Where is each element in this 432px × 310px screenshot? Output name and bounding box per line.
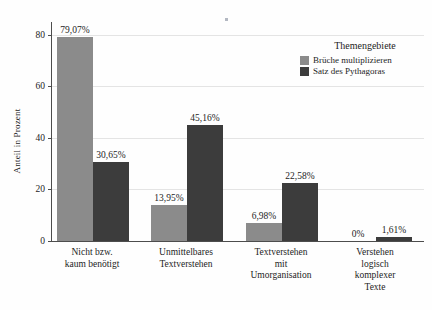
bar-group: 79,07%30,65% [57, 22, 129, 241]
bar-fill [246, 223, 282, 241]
bar-fill [151, 205, 187, 241]
bar-value-label: 13,95% [154, 193, 183, 203]
bar-fill [57, 37, 93, 241]
scan-artifact-speck [225, 18, 228, 21]
legend-color-swatch-icon [300, 67, 309, 76]
category-label-line: Verstehen [320, 247, 430, 259]
bar[interactable]: 79,07% [57, 37, 93, 241]
bar[interactable]: 0% [340, 241, 376, 242]
bar-group: 13,95%45,16% [151, 22, 223, 241]
category-label-line: Textverstehen [131, 259, 241, 271]
y-axis-tick-label: 0 [40, 236, 45, 246]
category-label-line: logisch [320, 259, 430, 271]
category-label-line: Texte [320, 282, 430, 294]
y-axis-tick [48, 86, 52, 87]
y-axis-tick-label: 40 [36, 133, 46, 143]
bar-value-label: 1,61% [382, 225, 407, 235]
bar-fill [187, 125, 223, 241]
legend-title: Themengebiete [300, 40, 430, 51]
legend-items: Brüche multiplizierenSatz des Pythagoras [300, 55, 430, 76]
bar-value-label: 0% [352, 229, 365, 239]
x-axis-category-label: UnmittelbaresTextverstehen [131, 247, 241, 270]
y-axis-tick [48, 241, 52, 242]
bar-value-label: 22,58% [285, 171, 314, 181]
y-axis-tick-label: 80 [36, 30, 46, 40]
bar-chart: Anteil in Prozent 02040608079,07%30,65%1… [0, 0, 432, 310]
bar[interactable]: 6,98% [246, 223, 282, 241]
y-axis-tick-label: 20 [36, 184, 46, 194]
y-axis-tick-label: 60 [36, 81, 46, 91]
bar-value-label: 6,98% [252, 211, 277, 221]
legend-item-label: Brüche multiplizieren [313, 55, 392, 65]
bar-fill [93, 162, 129, 241]
bar[interactable]: 22,58% [282, 183, 318, 241]
legend-item-label: Satz des Pythagoras [313, 66, 385, 76]
legend-color-swatch-icon [300, 56, 309, 65]
bar[interactable]: 13,95% [151, 205, 187, 241]
bar-value-label: 79,07% [60, 25, 89, 35]
bar-fill [376, 237, 412, 241]
category-label-line: komplexer [320, 270, 430, 282]
bar[interactable]: 1,61% [376, 237, 412, 241]
y-axis-tick [48, 35, 52, 36]
legend-item[interactable]: Brüche multiplizieren [300, 55, 430, 65]
bar-fill [282, 183, 318, 241]
legend: Themengebiete Brüche multiplizierenSatz … [300, 40, 430, 76]
bar[interactable]: 30,65% [93, 162, 129, 241]
y-axis-title: Anteil in Prozent [12, 95, 22, 187]
bar-value-label: 30,65% [96, 150, 125, 160]
x-axis-category-label: VerstehenlogischkomplexerTexte [320, 247, 430, 293]
bar[interactable]: 45,16% [187, 125, 223, 241]
y-axis-tick [48, 189, 52, 190]
y-axis-tick [48, 138, 52, 139]
category-label-line: Unmittelbares [131, 247, 241, 259]
bar-value-label: 45,16% [190, 113, 219, 123]
legend-item[interactable]: Satz des Pythagoras [300, 66, 430, 76]
